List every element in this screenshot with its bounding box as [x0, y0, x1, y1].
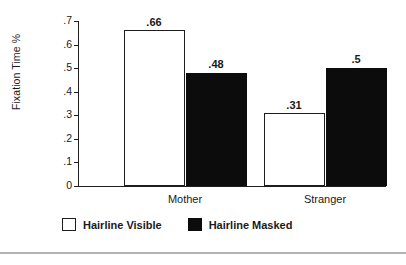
y-axis-tick-label: .6 [63, 38, 72, 51]
y-axis-tick-mark [74, 21, 78, 22]
x-axis-category-label: Mother [168, 193, 202, 205]
y-axis-title: Fixation Time % [10, 17, 22, 127]
y-axis-tick-mark [74, 139, 78, 140]
black-square-swatch [188, 218, 202, 231]
y-axis-tick-label: .3 [63, 108, 72, 121]
y-axis-tick-label: .5 [63, 61, 72, 74]
bar-value-label: .31 [286, 99, 301, 111]
y-axis-tick-mark [74, 162, 78, 163]
legend-label: Hairline Visible [83, 219, 162, 231]
plot-area: 0.1.2.3.4.5.6.7 .66.48.31.5 MotherStrang… [78, 21, 386, 186]
bar: .31 [264, 113, 325, 186]
legend-label: Hairline Masked [209, 219, 293, 231]
bar-chart-figure: Fixation Time % 0.1.2.3.4.5.6.7 .66.48.3… [0, 0, 406, 265]
legend-item: Hairline Masked [188, 218, 293, 231]
bar-value-label: .48 [208, 58, 223, 70]
y-axis-tick-label: .7 [63, 14, 72, 27]
x-axis-line [78, 186, 386, 187]
bar: .66 [124, 30, 185, 186]
y-axis-tick-mark [74, 186, 78, 187]
bar-value-label: .5 [351, 53, 360, 65]
chart-legend: Hairline VisibleHairline Masked [62, 218, 292, 231]
y-axis-tick-label: .1 [63, 155, 72, 168]
y-axis-tick-label: .4 [63, 85, 72, 98]
y-axis-tick-label: .2 [63, 132, 72, 145]
bar: .5 [326, 68, 387, 186]
y-axis-tick-label: 0 [66, 179, 72, 192]
y-axis-tick-mark [74, 92, 78, 93]
y-axis-tick-mark [74, 45, 78, 46]
bar: .48 [186, 73, 247, 186]
legend-item: Hairline Visible [62, 218, 162, 231]
y-axis-tick-mark [74, 115, 78, 116]
bar-value-label: .66 [146, 16, 161, 28]
y-axis-line [78, 21, 79, 187]
bottom-divider-rule [0, 252, 406, 254]
white-square-swatch [62, 218, 76, 231]
x-axis-category-label: Stranger [304, 193, 346, 205]
y-axis-tick-mark [74, 68, 78, 69]
